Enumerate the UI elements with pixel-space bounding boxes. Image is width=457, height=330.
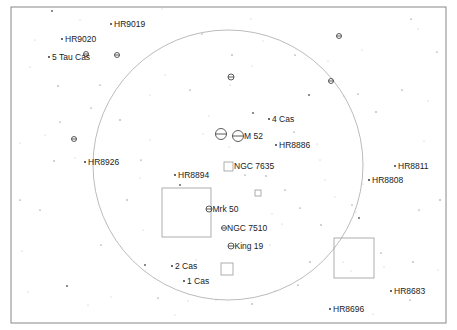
- star-dot: [319, 159, 320, 160]
- labeled-star[interactable]: HR9020: [61, 34, 96, 44]
- star-dot: [164, 74, 165, 75]
- labeled-star[interactable]: 5 Tau Cas: [48, 52, 90, 62]
- star-dot: [281, 223, 282, 224]
- star-label: HR8894: [178, 170, 209, 180]
- star-dot: [299, 207, 300, 208]
- star-dot: [293, 131, 294, 132]
- star-dot: [262, 40, 263, 41]
- star-dot: [361, 49, 362, 50]
- star-label: HR8696: [333, 304, 364, 314]
- star-dot: [179, 184, 181, 186]
- star-dot: [21, 250, 22, 251]
- star-dot: [100, 244, 101, 245]
- star-label: HR9020: [65, 34, 96, 44]
- star-dot: [351, 204, 352, 205]
- star-dot: [90, 107, 91, 108]
- star-label: HR8808: [372, 175, 403, 185]
- star-icon: [48, 56, 50, 58]
- star-icon: [174, 174, 176, 176]
- star-dot: [423, 140, 424, 141]
- star-dot: [74, 157, 75, 158]
- star-dot: [251, 65, 252, 66]
- star-label: 5 Tau Cas: [52, 52, 90, 62]
- star-dot: [59, 121, 60, 122]
- star-dot: [362, 183, 363, 184]
- star-dot: [139, 177, 140, 178]
- cluster-label: Mrk 50: [213, 204, 239, 214]
- star-dot: [202, 133, 203, 134]
- star-dot: [149, 94, 150, 95]
- star-dot: [251, 303, 253, 305]
- star-dot: [250, 18, 251, 19]
- star-dot: [380, 252, 381, 253]
- star-dot: [327, 60, 328, 61]
- star-label: HR8886: [279, 140, 310, 150]
- star-dot: [187, 300, 188, 301]
- star-dot: [51, 10, 53, 12]
- star-dot: [34, 39, 35, 40]
- labeled-star[interactable]: HR8811: [394, 161, 429, 171]
- star-label: 2 Cas: [175, 261, 197, 271]
- star-label: HR8683: [394, 286, 425, 296]
- labeled-star[interactable]: HR8683: [390, 286, 425, 296]
- labeled-star[interactable]: HR8696: [329, 304, 364, 314]
- labeled-star[interactable]: 4 Cas: [268, 114, 294, 124]
- star-dot: [144, 264, 146, 266]
- star-icon: [329, 308, 331, 310]
- star-dot: [418, 209, 419, 210]
- cluster-marker[interactable]: NGC 7510: [222, 223, 268, 233]
- star-label: 4 Cas: [272, 114, 294, 124]
- star-icon: [183, 280, 185, 282]
- star-dot: [140, 159, 141, 160]
- star-dot: [358, 217, 360, 219]
- star-dot: [57, 85, 59, 87]
- star-dot: [316, 143, 317, 144]
- star-dot: [265, 175, 267, 177]
- star-dot: [342, 261, 343, 262]
- star-icon: [275, 144, 277, 146]
- labeled-star[interactable]: 2 Cas: [171, 261, 197, 271]
- star-dot: [189, 89, 190, 90]
- star-dot: [412, 261, 414, 263]
- labeled-star[interactable]: HR8886: [275, 140, 310, 150]
- star-dot: [19, 199, 20, 200]
- star-icon: [390, 290, 392, 292]
- star-dot: [53, 160, 55, 162]
- star-dot: [357, 93, 358, 94]
- star-dot: [271, 213, 272, 214]
- star-dot: [87, 304, 88, 305]
- star-dot: [308, 94, 310, 96]
- star-icon: [84, 161, 86, 163]
- star-dot: [383, 266, 384, 267]
- star-dot: [161, 8, 162, 9]
- star-icon: [268, 118, 270, 120]
- star-dot: [39, 209, 40, 210]
- star-dot: [409, 299, 410, 300]
- labeled-star[interactable]: HR8894: [174, 170, 209, 180]
- star-label: HR8811: [398, 161, 429, 171]
- labeled-star[interactable]: HR8808: [368, 175, 403, 185]
- star-dot: [119, 119, 121, 121]
- star-icon: [171, 265, 173, 267]
- labeled-star[interactable]: 1 Cas: [183, 276, 209, 286]
- star-dot: [44, 134, 45, 135]
- star-dot: [208, 115, 209, 116]
- labeled-star[interactable]: HR8926: [84, 157, 119, 167]
- star-label: 1 Cas: [187, 276, 209, 286]
- star-dot: [29, 66, 30, 67]
- labeled-star[interactable]: HR9019: [110, 19, 145, 29]
- star-icon: [394, 165, 396, 167]
- star-dot: [99, 84, 100, 85]
- star-dot: [436, 51, 437, 52]
- nebula-label[interactable]: NGC 7635: [234, 161, 274, 171]
- star-dot: [417, 28, 418, 29]
- star-dot: [372, 313, 373, 314]
- star-dot: [269, 244, 270, 245]
- star-dot: [110, 296, 111, 297]
- star-dot: [401, 89, 402, 90]
- star-label: HR9019: [114, 19, 145, 29]
- star-dot: [66, 285, 68, 287]
- star-icon: [368, 179, 370, 181]
- star-dot: [334, 196, 335, 197]
- star-dot: [297, 284, 298, 285]
